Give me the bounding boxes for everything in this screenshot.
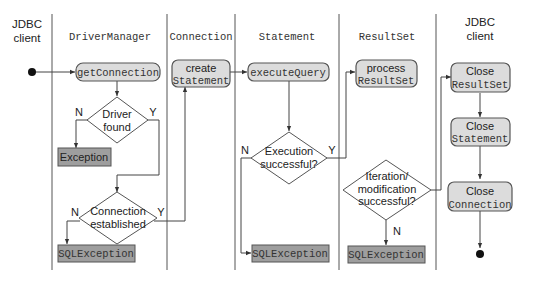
node-label: ResultSet — [358, 75, 415, 87]
node-exception: Exception — [58, 148, 111, 166]
lane-header-jdbc-client-right: JDBC — [465, 16, 495, 28]
node-close-statement: Close Statement — [451, 118, 510, 146]
decision-label: found — [103, 121, 131, 133]
node-label: process — [367, 62, 406, 74]
node-get-connection: getConnection — [76, 63, 160, 81]
edge-label-yes: Y — [328, 144, 336, 156]
decision-driver-found: Driver found N Y — [75, 97, 157, 143]
node-process-resultset: process ResultSet — [356, 60, 417, 87]
edge-label-no: N — [393, 225, 401, 237]
node-label: Exception — [60, 151, 108, 163]
edge-label-yes: Y — [157, 206, 165, 218]
node-label: Statement — [173, 75, 230, 87]
lane-header-connection: Connection — [169, 31, 232, 43]
node-close-resultset: Close ResultSet — [451, 63, 510, 92]
decision-iteration-successful: Iteration/ modification successful? N — [343, 160, 431, 237]
edge-execution-successful-no — [241, 158, 252, 253]
end-node — [476, 250, 484, 258]
lane-header-drivermanager: DriverManager — [69, 31, 151, 43]
start-node — [28, 68, 36, 76]
lane-header-jdbc-client: client — [14, 32, 42, 44]
node-label: getConnection — [77, 67, 159, 79]
decision-label: established — [90, 218, 146, 230]
edge-label-no: N — [75, 106, 83, 118]
node-create-statement: create Statement — [172, 60, 230, 87]
edge-label-no: N — [241, 144, 249, 156]
jdbc-activity-diagram: JDBC client DriverManager Connection Sta… — [0, 0, 533, 284]
node-label: Connection — [448, 199, 511, 211]
decision-execution-successful: Execution successful? N Y — [241, 132, 336, 184]
node-sql-exception-1: SQLException — [58, 245, 135, 262]
node-execute-query: executeQuery — [248, 63, 329, 81]
lane-header-statement: Statement — [259, 31, 316, 43]
decision-label: successful? — [358, 195, 415, 207]
node-label: Close — [466, 120, 494, 132]
node-label: Close — [466, 185, 494, 197]
edge-driver-found-no — [76, 120, 88, 148]
decision-label: Execution — [265, 145, 313, 157]
node-label: SQLException — [252, 248, 328, 260]
node-sql-exception-3: SQLException — [348, 246, 425, 263]
edge-iteration-successful-yes — [431, 77, 451, 190]
decision-connection-established: Connection established N Y — [71, 192, 165, 244]
decision-label: Connection — [90, 205, 146, 217]
decision-label: modification — [358, 183, 417, 195]
node-label: ResultSet — [452, 79, 509, 91]
node-label: Statement — [452, 133, 509, 145]
lane-headers: JDBC client DriverManager Connection Sta… — [12, 16, 495, 44]
decision-diamond — [87, 97, 148, 143]
lane-header-jdbc-client: JDBC — [12, 18, 42, 30]
node-sql-exception-2: SQLException — [252, 245, 329, 262]
node-label: executeQuery — [250, 67, 326, 79]
lane-header-resultset: ResultSet — [359, 31, 416, 43]
node-label: SQLException — [348, 249, 424, 261]
lane-header-jdbc-client-right: client — [467, 30, 495, 42]
edge-label-no: N — [71, 206, 79, 218]
node-close-connection: Close Connection — [448, 182, 512, 211]
node-label: create — [186, 62, 217, 74]
node-label: SQLException — [58, 248, 134, 260]
node-label: Close — [466, 65, 494, 77]
decision-label: Driver — [102, 108, 132, 120]
edge-label-yes: Y — [149, 106, 157, 118]
edge-connection-established-no — [67, 221, 80, 244]
decision-label: Iteration/ — [366, 170, 410, 182]
decision-label: successful? — [260, 158, 317, 170]
